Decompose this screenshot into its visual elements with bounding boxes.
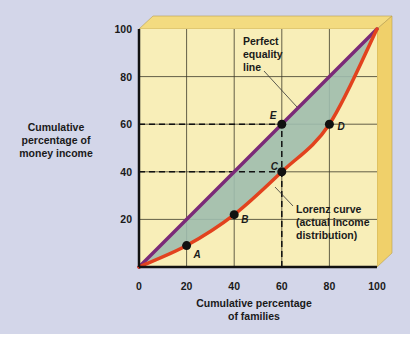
lorenz-chart: ABCDE 02040608010020406080100 Perfectequ… xyxy=(0,0,410,339)
x-tick-label: 0 xyxy=(136,280,142,292)
point-e xyxy=(277,120,286,129)
frame-top-face xyxy=(139,16,392,29)
x-tick-label: 100 xyxy=(368,280,386,292)
equality-annotation-line: line xyxy=(243,61,261,73)
point-label-c: C xyxy=(271,161,279,172)
x-tick-label: 20 xyxy=(181,280,193,292)
lorenz-annotation-line: distribution) xyxy=(296,229,357,241)
x-tick-label: 80 xyxy=(324,280,336,292)
y-tick-label: 40 xyxy=(120,166,132,178)
point-label-e: E xyxy=(270,110,277,121)
lorenz-annotation-line: Lorenz curve xyxy=(296,203,362,215)
point-label-a: A xyxy=(193,249,201,260)
y-axis-label: percentage of xyxy=(22,134,91,146)
x-tick-label: 60 xyxy=(276,280,288,292)
x-tick-label: 40 xyxy=(228,280,240,292)
point-a xyxy=(182,241,191,250)
point-b xyxy=(230,210,239,219)
y-tick-label: 100 xyxy=(114,23,132,35)
y-tick-label: 60 xyxy=(120,118,132,130)
equality-annotation-line: Perfect xyxy=(243,35,279,47)
frame-right-face xyxy=(377,16,392,267)
equality-annotation-line: equality xyxy=(243,48,283,60)
lorenz-annotation-line: (actual income xyxy=(296,216,370,228)
point-d xyxy=(325,120,334,129)
point-c xyxy=(277,167,286,176)
y-tick-label: 80 xyxy=(120,71,132,83)
point-label-d: D xyxy=(337,121,344,132)
point-label-b: B xyxy=(241,214,248,225)
x-axis-label: Cumulative percentage xyxy=(196,297,312,309)
y-tick-label: 20 xyxy=(120,213,132,225)
x-axis-label: of families xyxy=(228,310,280,322)
y-axis-label: Cumulative xyxy=(28,121,85,133)
y-axis-label: money income xyxy=(19,147,93,159)
